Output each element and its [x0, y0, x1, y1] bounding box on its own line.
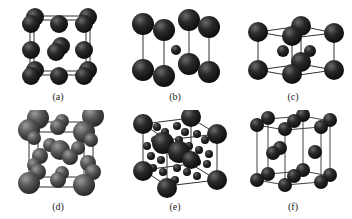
panel-label-a: (a) [43, 91, 73, 102]
panel-label-f: (f) [278, 201, 308, 212]
panel-b: (b) [117, 0, 234, 110]
panel-label-b: (b) [160, 91, 190, 102]
panel-f: (f) [234, 110, 352, 219]
panel-label-d: (d) [43, 201, 73, 212]
panel-e: (e) [117, 110, 234, 219]
panel-label-e: (e) [160, 201, 190, 212]
panel-label-c: (c) [278, 91, 308, 102]
panel-c: (c) [234, 0, 352, 110]
panel-d: (d) [0, 110, 117, 219]
panel-a: (a) [0, 0, 117, 110]
